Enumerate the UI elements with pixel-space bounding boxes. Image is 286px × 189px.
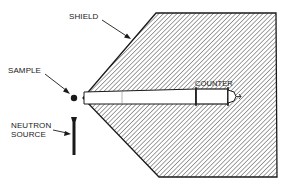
counter-label: COUNTER: [195, 79, 233, 88]
neutron-source-rod: [71, 117, 77, 155]
diagram-canvas: [0, 0, 286, 189]
shield-label: SHIELD: [69, 12, 99, 21]
collimator-channel: [84, 89, 196, 104]
neutron-counter-diagram: SHIELD SAMPLE COUNTER NEUTRON SOURCE: [0, 0, 286, 189]
neutron-source-label-line2: SOURCE: [11, 130, 46, 139]
source-leader-arrow: [53, 130, 71, 136]
neutron-source-label-line1: NEUTRON: [11, 121, 51, 130]
sample-dot: [71, 95, 77, 101]
sample-label: SAMPLE: [8, 66, 41, 75]
counter-tube: [196, 89, 228, 104]
shield-leader-arrow: [102, 20, 131, 39]
sample-leader-arrow: [45, 74, 70, 94]
